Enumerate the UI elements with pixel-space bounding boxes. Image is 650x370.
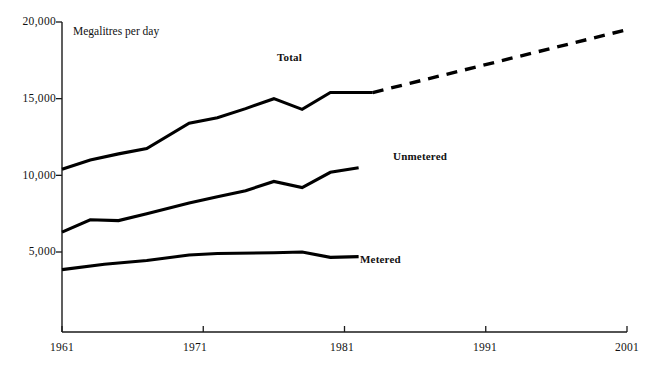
- y-axis-ticks: [56, 22, 62, 252]
- y-axis-caption: Megalitres per day: [73, 25, 159, 37]
- series-line-total: [62, 93, 373, 170]
- series-line-unmetered: [62, 168, 359, 232]
- y-tick-label-5000: 5,000: [4, 245, 56, 257]
- x-tick-label-1971: 1971: [171, 341, 219, 353]
- series-label-total: Total: [277, 51, 302, 63]
- series-label-unmetered: Unmetered: [393, 150, 447, 162]
- y-tick-label-10000: 10,000: [4, 169, 56, 181]
- y-tick-label-15000: 15,000: [4, 92, 56, 104]
- series-label-metered: Metered: [360, 253, 401, 265]
- x-tick-label-1991: 1991: [461, 341, 509, 353]
- x-axis-ticks: [62, 326, 627, 332]
- data-series-group: [62, 30, 627, 270]
- series-line-total-projected: [373, 30, 627, 93]
- x-tick-label-1981: 1981: [318, 341, 366, 353]
- x-tick-label-2001: 2001: [603, 341, 650, 353]
- series-line-metered: [62, 252, 359, 270]
- chart-plot-area: [0, 0, 650, 370]
- chart-container: 20,000 15,000 10,000 5,000 1961 1971 198…: [0, 0, 650, 370]
- x-tick-label-1961: 1961: [38, 341, 86, 353]
- y-tick-label-20000: 20,000: [4, 15, 56, 27]
